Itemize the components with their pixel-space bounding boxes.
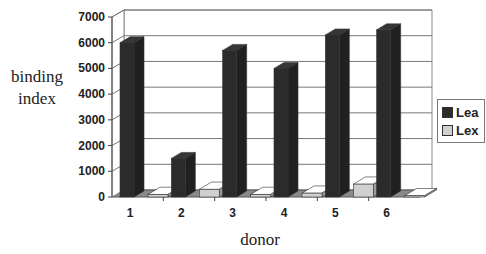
legend-swatch-lea xyxy=(442,107,453,118)
legend-item-lea: Lea xyxy=(442,104,478,120)
y-tick-label: 4000 xyxy=(78,87,105,101)
bar-lea-front xyxy=(274,68,288,197)
x-tick-label: 3 xyxy=(229,206,236,220)
y-tick-label: 2000 xyxy=(78,139,105,153)
y-tick-label: 5000 xyxy=(78,61,105,75)
legend: Lea Lex xyxy=(437,99,485,143)
bar-lea-front xyxy=(223,50,237,197)
y-tick-label: 7000 xyxy=(78,10,105,24)
x-tick-label: 5 xyxy=(332,206,339,220)
bar-lea-side xyxy=(237,44,247,197)
bar-lea-front xyxy=(325,35,339,197)
x-tick-label: 6 xyxy=(383,206,390,220)
bar-lea-front xyxy=(171,158,185,197)
bar-lea-side xyxy=(391,24,401,197)
y-tick-label: 3000 xyxy=(78,113,105,127)
x-tick-label: 1 xyxy=(127,206,134,220)
bar-lex-front xyxy=(148,194,168,197)
x-tick-label: 2 xyxy=(178,206,185,220)
bar-lex-front xyxy=(405,196,425,197)
legend-label-lea: Lea xyxy=(456,105,478,120)
legend-swatch-lex xyxy=(442,125,453,136)
x-tick-label: 4 xyxy=(281,206,288,220)
y-tick-label: 0 xyxy=(98,190,105,204)
bar-lea-side xyxy=(288,62,298,197)
bar-lea-side xyxy=(134,37,144,197)
bar-lea-front xyxy=(377,30,391,197)
bar-lex-front xyxy=(353,184,373,197)
bar-lex-front xyxy=(251,194,271,197)
legend-label-lex: Lex xyxy=(456,123,478,138)
bar-lea-side xyxy=(185,152,195,197)
chart-plot-area: 01000200030004000500060007000123456 xyxy=(0,0,486,254)
bar-lex-front xyxy=(302,193,322,197)
y-tick-label: 6000 xyxy=(78,36,105,50)
bar-lea-front xyxy=(120,43,134,197)
legend-item-lex: Lex xyxy=(442,122,478,138)
bar-lea-side xyxy=(339,29,349,197)
bar-lex-front xyxy=(199,189,219,197)
x-axis-label: donor xyxy=(220,230,300,250)
y-tick-label: 1000 xyxy=(78,164,105,178)
